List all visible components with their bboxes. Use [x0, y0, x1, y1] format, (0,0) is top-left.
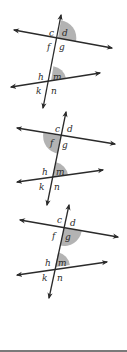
label-c: c	[49, 28, 54, 38]
label-m: m	[58, 258, 67, 268]
diagram-3: c d f g h m k n	[17, 205, 118, 298]
label-n: n	[57, 273, 63, 283]
label-f: f	[46, 42, 52, 52]
label-h: h	[38, 72, 44, 82]
label-n: n	[54, 182, 60, 192]
label-d: d	[62, 28, 68, 38]
label-k: k	[39, 182, 44, 192]
label-g: g	[65, 232, 71, 242]
label-d: d	[67, 124, 73, 134]
label-m: m	[53, 72, 62, 82]
label-g: g	[59, 42, 65, 52]
label-f: f	[51, 231, 57, 241]
label-c: c	[55, 124, 60, 134]
label-m: m	[56, 167, 65, 177]
label-k: k	[36, 86, 41, 96]
label-g: g	[62, 140, 68, 150]
diagram-canvas: c d f g h m k n c d f g h m k n c d f	[0, 0, 127, 352]
diagram-2: c d f g h m k n	[17, 112, 115, 205]
diagram-1: c d f g h m k n	[11, 15, 112, 108]
label-h: h	[42, 167, 48, 177]
label-k: k	[42, 273, 47, 283]
label-d: d	[70, 218, 76, 228]
label-n: n	[51, 86, 57, 96]
label-c: c	[57, 215, 62, 225]
label-h: h	[45, 258, 51, 268]
